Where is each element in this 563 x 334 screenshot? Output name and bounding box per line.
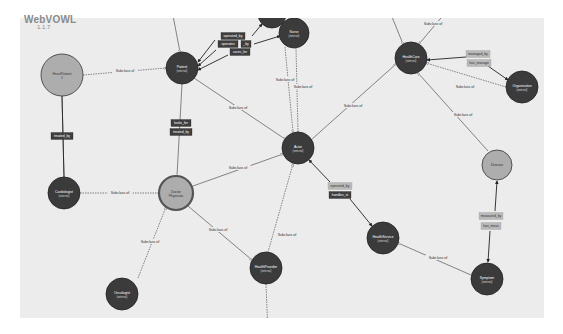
node-label: HealthCare bbox=[402, 55, 419, 59]
object-property[interactable]: treated_by bbox=[170, 129, 192, 136]
edge-label: Subclass of bbox=[454, 113, 473, 117]
node-label: Organization bbox=[512, 84, 531, 88]
property-label: looks_for bbox=[174, 121, 189, 125]
property-link bbox=[252, 24, 262, 36]
class-node-patient[interactable]: Patient(external) bbox=[166, 52, 198, 84]
property-label: treated_by bbox=[173, 130, 189, 134]
edge-label: Subclass of bbox=[429, 256, 448, 260]
class-node-disease[interactable]: Disease bbox=[482, 150, 512, 180]
node-label: HealthProvider bbox=[255, 265, 278, 269]
subclass-edge[interactable]: Subclass of bbox=[83, 68, 166, 75]
nodes-layer: HeartPatient1Patient(external)Nurse(exte… bbox=[41, 0, 538, 310]
property-label: has_manage bbox=[469, 61, 489, 65]
edge-label: Subclass of bbox=[229, 106, 248, 110]
edge-label: Subclass of bbox=[344, 104, 363, 108]
edge-label: Subclass of bbox=[209, 228, 228, 232]
node-label: Nurse bbox=[289, 30, 298, 34]
object-property[interactable]: managed_by bbox=[466, 51, 490, 58]
property-label: operated_by bbox=[331, 184, 350, 188]
property-label: operated_by bbox=[224, 34, 243, 38]
node-sublabel: (external) bbox=[378, 239, 389, 243]
class-node-heartpatient[interactable]: HeartPatient1 bbox=[41, 54, 83, 96]
class-node-symptom[interactable]: Symptom(external) bbox=[471, 263, 503, 295]
class-node-healthservice[interactable]: HealthService(external) bbox=[367, 222, 399, 254]
subclass-edge[interactable]: Subclass of bbox=[193, 154, 283, 186]
node-sublabel: (external) bbox=[117, 295, 128, 299]
subclass-edge[interactable]: Subclass of bbox=[290, 48, 315, 132]
node-sublabel: (external) bbox=[482, 280, 493, 284]
object-property[interactable]: operated_by bbox=[328, 183, 352, 190]
properties-layer: treated_bylooks_fortreated_byoperated_by… bbox=[51, 33, 503, 230]
edge-label: Subclass of bbox=[116, 69, 135, 73]
object-property[interactable]: measured_by bbox=[479, 213, 503, 220]
object-property[interactable]: has_meas bbox=[481, 223, 501, 230]
class-node-healthcare[interactable]: HealthCare(external) bbox=[395, 42, 427, 74]
node-label: Cardiologist bbox=[55, 190, 73, 194]
node-sublabel: (external) bbox=[406, 59, 417, 63]
subclass-edge[interactable]: Subclass of bbox=[398, 243, 471, 275]
subclass-edge[interactable]: Subclass of bbox=[188, 206, 252, 260]
subclass-edge[interactable]: Subclass of bbox=[419, 12, 446, 44]
property-label: cares_for bbox=[233, 50, 248, 54]
edge-label: Subclass of bbox=[229, 166, 248, 170]
subclass-edge[interactable]: Subclass of bbox=[426, 63, 506, 89]
property-label: operates bbox=[221, 42, 234, 46]
object-property[interactable]: treated_by bbox=[51, 133, 73, 140]
node-sublabel: 1 bbox=[61, 76, 63, 80]
node-sublabel: (external) bbox=[517, 88, 528, 92]
property-label: handles_st bbox=[332, 193, 348, 197]
edge-label: Subclass of bbox=[141, 240, 160, 244]
property-label: measured_by bbox=[481, 214, 502, 218]
edge-label: Subclass of bbox=[278, 233, 297, 237]
subclass-edge[interactable]: Subclass of bbox=[137, 207, 166, 278]
node-sublabel: Physician bbox=[169, 194, 184, 198]
object-property[interactable]: looks_for bbox=[171, 120, 191, 127]
edge-label: Subclass of bbox=[456, 85, 475, 89]
ontology-graph[interactable]: Subclass ofSubclass ofSubclass ofSubclas… bbox=[0, 0, 563, 334]
object-property[interactable]: operated_by bbox=[221, 33, 245, 40]
class-node-organization[interactable]: Organization(external) bbox=[506, 71, 538, 103]
subclass-edge[interactable] bbox=[170, 0, 180, 52]
object-property[interactable]: cares_for bbox=[230, 49, 250, 56]
node-label: Actor bbox=[294, 145, 303, 149]
property-link bbox=[350, 199, 372, 226]
subclass-edge[interactable] bbox=[390, 12, 403, 44]
property-link bbox=[488, 66, 508, 80]
edge-label: Subclass of bbox=[276, 78, 295, 82]
edge-label: Subclass of bbox=[111, 191, 130, 195]
property-link bbox=[309, 160, 330, 182]
class-node-nurse[interactable]: Nurse(external) bbox=[279, 18, 309, 48]
property-link bbox=[427, 57, 466, 60]
subclass-edge[interactable]: Subclass of bbox=[80, 190, 159, 195]
property-link bbox=[254, 36, 280, 44]
subclass-edge[interactable] bbox=[266, 284, 268, 334]
property-label: _by bbox=[242, 42, 249, 46]
object-property[interactable]: handles_st bbox=[329, 192, 351, 199]
object-property[interactable]: _by bbox=[241, 41, 251, 48]
class-node-oncologist[interactable]: Oncologist(external) bbox=[106, 278, 138, 310]
node-sublabel: (external) bbox=[59, 194, 70, 198]
property-label: treated_by bbox=[54, 134, 70, 138]
property-label: has_meas bbox=[483, 224, 499, 228]
node-label: Patient bbox=[177, 65, 188, 69]
subclass-edge[interactable]: Subclass of bbox=[272, 47, 297, 132]
object-property[interactable]: has_manage bbox=[467, 60, 491, 67]
node-sublabel: (external) bbox=[177, 69, 188, 73]
app-version: 1.1.7 bbox=[37, 24, 50, 30]
subclass-edge[interactable]: Subclass of bbox=[268, 164, 300, 252]
property-label: managed_by bbox=[468, 52, 488, 56]
node-sublabel: (external) bbox=[261, 269, 272, 273]
class-node-doctor[interactable]: DoctorPhysician bbox=[159, 176, 193, 210]
class-node-cardiologist[interactable]: Cardiologist(external) bbox=[48, 177, 80, 209]
property-link bbox=[488, 231, 490, 262]
node-label: Oncologist bbox=[114, 291, 130, 295]
object-property[interactable]: operates bbox=[218, 41, 238, 48]
edge-label: Subclass of bbox=[294, 85, 313, 89]
subclass-edge[interactable]: Subclass of bbox=[311, 64, 396, 140]
node-sublabel: (external) bbox=[289, 34, 300, 38]
class-node-actor[interactable]: Actor(external) bbox=[282, 132, 314, 164]
class-node-healthprovider[interactable]: HealthProvider(external) bbox=[250, 252, 282, 284]
subclass-edge[interactable]: Subclass of bbox=[194, 78, 285, 139]
edge-label: Subclass of bbox=[424, 22, 443, 26]
node-sublabel: (external) bbox=[293, 149, 304, 153]
